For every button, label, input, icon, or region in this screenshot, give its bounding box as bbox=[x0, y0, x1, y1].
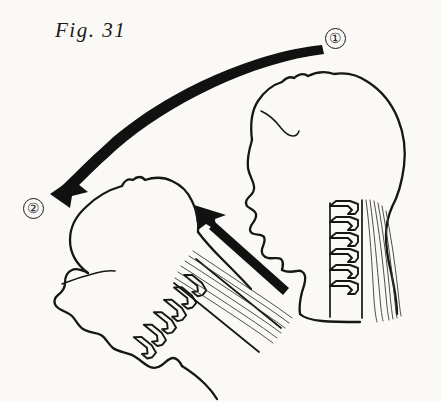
face-profile-upright bbox=[246, 140, 283, 270]
nape-contour-upright bbox=[386, 207, 397, 314]
cervical-vertebrae-upright bbox=[330, 201, 358, 294]
rotation-arrow bbox=[50, 45, 324, 208]
traction-arrow bbox=[194, 205, 289, 295]
face-profile-flexed bbox=[54, 269, 132, 355]
jaw-line-flexed bbox=[132, 355, 182, 368]
head-flexed-figure bbox=[54, 177, 292, 399]
head-upright-figure bbox=[246, 72, 405, 322]
vertebral-column-front-edge-flexed bbox=[196, 259, 281, 328]
figure-illustration: Fig. 31 ① ② bbox=[0, 0, 441, 402]
throat-line-flexed bbox=[182, 366, 217, 399]
line-drawing-canvas bbox=[0, 0, 441, 402]
skull-outline-flexed bbox=[70, 177, 198, 273]
hairline-detail-upright bbox=[261, 111, 299, 136]
cervical-vertebrae-flexed bbox=[129, 271, 209, 360]
skull-outline-upright bbox=[251, 72, 405, 207]
